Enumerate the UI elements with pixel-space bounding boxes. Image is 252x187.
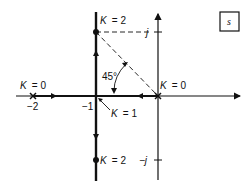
tick-label-minus-j: −j: [139, 155, 148, 166]
dashed-diagonal: [96, 32, 158, 96]
gain-label-upper: K = 2: [100, 15, 126, 26]
tick-label-j: j: [144, 27, 149, 38]
gain-label-lower: K = 2: [100, 155, 126, 166]
locus-arrow-right-icon: [51, 93, 57, 99]
tick-label-minus-1: −1: [82, 101, 94, 112]
root-locus-diagram: s j −j −2 −1 KK = 0 = 0 K = 0 K = 2 K = …: [0, 0, 252, 187]
locus-arrow-left-icon: [137, 93, 143, 99]
locus-arrow-down-icon: [93, 134, 99, 140]
gain-point-lower-icon: [93, 157, 99, 163]
s-plane-label: s: [227, 16, 231, 27]
breakaway-label: K = 1: [111, 108, 137, 119]
breakaway-pointer-arrow-icon: [98, 98, 103, 102]
angle-arc-arrow-icon: [111, 88, 117, 94]
angle-label: 45°: [102, 71, 117, 82]
locus-arrow-up-icon: [93, 50, 99, 56]
pole-label-minus-2: KK = 0 = 0: [20, 80, 51, 91]
s-plane-label-box: s: [220, 12, 239, 31]
tick-label-minus-2: −2: [27, 101, 39, 112]
pole-label-origin: K = 0: [160, 80, 186, 91]
gain-point-upper-icon: [93, 29, 99, 35]
